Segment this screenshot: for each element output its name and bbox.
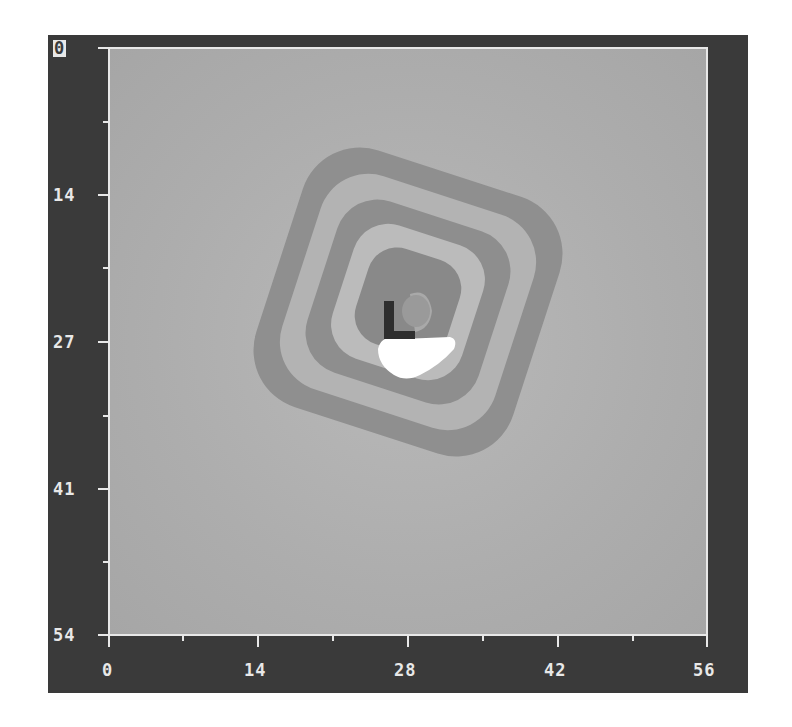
y-major-tick [98,47,110,49]
x-minor-tick [482,635,484,641]
x-minor-tick [632,635,634,641]
y-major-tick [98,488,110,490]
y-major-tick [98,194,110,196]
x-major-tick [257,635,259,647]
x-tick-label: 14 [244,662,266,679]
x-tick-label: 0 [102,662,113,679]
y-tick-label: 54 [53,627,75,644]
x-tick-label: 28 [394,662,416,679]
y-minor-tick [103,267,109,269]
x-major-tick [407,635,409,647]
x-major-tick [706,635,708,647]
x-minor-tick [182,635,184,641]
chart-frame: 0 14 27 41 54 0 14 28 42 56 [48,35,748,693]
plot-area [108,47,708,636]
y-minor-tick [103,415,109,417]
contour-image [110,49,708,636]
y-tick-label: 0 [53,40,66,57]
y-tick-label: 27 [53,334,75,351]
x-tick-label: 42 [544,662,566,679]
x-major-tick [557,635,559,647]
x-tick-label: 56 [693,662,715,679]
y-tick-label: 41 [53,481,75,498]
x-minor-tick [332,635,334,641]
y-minor-tick [103,561,109,563]
x-major-tick [108,635,110,647]
y-minor-tick [103,121,109,123]
y-major-tick [98,341,110,343]
center-spot [402,295,430,327]
y-tick-label: 14 [53,187,75,204]
